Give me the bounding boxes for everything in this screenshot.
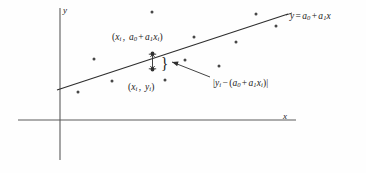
- scatter-point: [164, 79, 167, 82]
- scatter-point: [77, 91, 80, 94]
- line-equation-label: y=a0+a1x: [290, 12, 331, 22]
- residual-leader: [172, 62, 210, 77]
- scatter-point: [218, 65, 221, 68]
- scatter-point: [235, 41, 238, 44]
- scatter-point: [111, 80, 114, 83]
- scatter-point: [93, 58, 96, 61]
- residual-label: |yi−(a0+a1xi)|: [213, 79, 268, 89]
- residual-brace-icon: }: [161, 55, 168, 72]
- scatter-point: [255, 13, 258, 16]
- scatter-point: [193, 36, 196, 39]
- scatter-point: [184, 59, 187, 62]
- diagram-canvas: [0, 0, 366, 173]
- data-point-label: (xi, yi): [128, 83, 154, 93]
- fitted-point-label: (xi, a0+a1xi): [112, 33, 163, 43]
- scatter-point: [151, 11, 154, 14]
- residual-bracket: [149, 54, 156, 69]
- regression-diagram: y x y=a0+a1x (xi, a0+a1xi) (xi, yi) |yi−…: [0, 0, 366, 173]
- x-axis-label: x: [283, 112, 287, 121]
- scatter-point: [275, 25, 278, 28]
- y-axis-label: y: [63, 6, 67, 15]
